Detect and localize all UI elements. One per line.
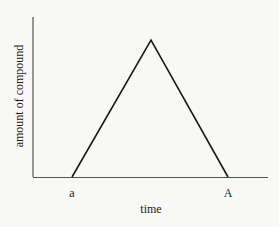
x-tick-label-a: a (69, 187, 74, 199)
compound-amount-line (72, 40, 228, 177)
x-tick-label-A: A (224, 187, 233, 199)
chart-canvas: a A time amount of compound (0, 0, 279, 227)
x-axis-label: time (140, 203, 161, 215)
plot-area (0, 0, 279, 227)
y-axis-label: amount of compound (13, 45, 25, 148)
